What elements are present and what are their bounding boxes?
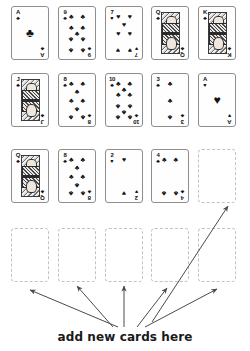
card-pip-clubs-icon: ♣ <box>80 97 85 104</box>
caption-add-new-cards-here: add new cards here <box>0 330 250 344</box>
empty-card-slot[interactable] <box>105 228 143 282</box>
playing-card[interactable]: 2♥2♥♥♥ <box>105 149 143 203</box>
card-board: A♣A♣♣9♣9♣♣♣♣♣♣♣♣♣♣7♥7♥♥♥♥♥♥♥♥Q♣Q♣K♣K♣ J♣… <box>0 0 250 351</box>
card-pip-clubs-icon: ♣ <box>75 30 80 37</box>
playing-card[interactable]: K♣K♣ <box>198 6 236 60</box>
card-row-2: Q♣Q♣8♣8♣♣♣♣♣♣♣♣♣2♥2♥♥♥4♣4♣♣♣♣♣ <box>0 149 250 205</box>
card-pip-clubs-icon: ♣ <box>162 155 167 162</box>
card-slot-r0-c2[interactable]: 7♥7♥♥♥♥♥♥♥♥ <box>105 6 143 60</box>
card-pip-hearts-icon: ♥ <box>128 47 132 54</box>
playing-card[interactable]: 10♣10♣♣♣♣♣♣♣♣♣♣♣ <box>105 73 143 127</box>
card-pip-clubs-icon: ♣ <box>80 155 85 162</box>
card-slot-r0-c4[interactable]: K♣K♣ <box>198 6 236 60</box>
card-pip-clubs-icon: ♣ <box>69 79 74 86</box>
card-pip-clubs-icon: ♣ <box>80 173 85 180</box>
card-pip-clubs-icon: ♣ <box>80 24 85 31</box>
card-pip-clubs-icon: ♣ <box>116 102 121 109</box>
card-pip-clubs-icon: ♣ <box>69 173 74 180</box>
card-slot-r3-c0[interactable] <box>11 228 49 282</box>
arrow-to-slot-r3c4 <box>145 289 217 327</box>
card-pip-clubs-icon: ♣ <box>116 91 121 98</box>
card-pip-clubs-icon: ♣ <box>69 190 74 197</box>
card-pip-hearts-icon: ♥ <box>116 47 120 54</box>
card-pip-clubs-icon: ♣ <box>173 155 178 162</box>
playing-card[interactable]: J♣J♣ <box>11 73 49 127</box>
card-pip-clubs-icon: ♣ <box>75 164 80 171</box>
card-pip-clubs-icon: ♣ <box>69 24 74 31</box>
court-divider <box>209 32 226 35</box>
card-slot-r3-c4[interactable] <box>198 228 236 282</box>
card-pip-hearts-icon: ♥ <box>128 12 132 19</box>
card-pip-clubs-icon: ♣ <box>116 114 121 121</box>
card-pip-field: ♣♣♣♣♣♣♣♣♣ <box>68 10 86 56</box>
card-pip-clubs-icon: ♣ <box>80 190 85 197</box>
playing-card[interactable]: A♣A♣♣ <box>11 6 49 60</box>
card-pip-clubs-icon: ♣ <box>80 114 85 121</box>
card-slot-r1-c0[interactable]: J♣J♣ <box>11 73 49 127</box>
card-pip-clubs-icon: ♣ <box>122 85 127 92</box>
card-pip-field: ♥ <box>208 77 226 123</box>
empty-card-slot[interactable] <box>151 228 189 282</box>
playing-card[interactable]: 3♣3♣♣♣♣ <box>151 73 189 127</box>
court-figure-icon <box>21 79 40 121</box>
card-pip-clubs-icon: ♣ <box>75 88 80 95</box>
card-pip-clubs-icon: ♣ <box>69 114 74 121</box>
playing-card[interactable]: 8♣8♣♣♣♣♣♣♣♣♣ <box>58 149 96 203</box>
card-slot-r3-c3[interactable] <box>151 228 189 282</box>
card-slot-r1-c1[interactable]: 8♣8♣♣♣♣♣♣♣♣♣ <box>58 73 96 127</box>
card-pip-clubs-icon: ♣ <box>69 12 74 19</box>
empty-card-slot[interactable] <box>11 228 49 282</box>
card-pip-clubs-icon: ♣ <box>122 108 127 115</box>
court-figure-icon <box>161 12 180 54</box>
card-pip-clubs-icon: ♣ <box>69 155 74 162</box>
card-slot-r0-c3[interactable]: Q♣Q♣ <box>151 6 189 60</box>
playing-card[interactable]: A♥A♥♥ <box>198 73 236 127</box>
card-slot-r2-c1[interactable]: 8♣8♣♣♣♣♣♣♣♣♣ <box>58 149 96 203</box>
empty-card-slot[interactable] <box>58 228 96 282</box>
card-pip-field: ♣♣♣ <box>161 77 179 123</box>
card-pip-clubs-icon: ♣ <box>168 79 173 86</box>
playing-card[interactable]: Q♣Q♣ <box>11 149 49 203</box>
court-divider <box>162 32 179 35</box>
playing-card[interactable]: 9♣9♣♣♣♣♣♣♣♣♣♣ <box>58 6 96 60</box>
card-slot-r3-c1[interactable] <box>58 228 96 282</box>
card-slot-r3-c2[interactable] <box>105 228 143 282</box>
card-pip-clubs-icon: ♣ <box>173 190 178 197</box>
card-slot-r1-c3[interactable]: 3♣3♣♣♣♣ <box>151 73 189 127</box>
arrow-to-slot-r3c3 <box>137 288 167 327</box>
arrow-to-slot-r3c1 <box>77 286 113 327</box>
card-pip-clubs-icon: ♣ <box>127 79 132 86</box>
card-slot-r2-c4[interactable] <box>198 149 236 203</box>
card-pip-clubs-icon: ♣ <box>80 79 85 86</box>
card-pip-hearts-icon: ♥ <box>122 155 126 162</box>
card-pip-clubs-icon: ♣ <box>116 79 121 86</box>
card-slot-r0-c1[interactable]: 9♣9♣♣♣♣♣♣♣♣♣♣ <box>58 6 96 60</box>
playing-card[interactable]: 4♣4♣♣♣♣♣ <box>151 149 189 203</box>
court-divider <box>22 175 39 178</box>
card-pip-clubs-icon: ♣ <box>127 102 132 109</box>
card-slot-r2-c3[interactable]: 4♣4♣♣♣♣♣ <box>151 149 189 203</box>
card-pip-field: ♥♥♥♥♥♥♥ <box>115 10 133 56</box>
empty-card-slot[interactable] <box>198 149 236 203</box>
card-slot-r2-c0[interactable]: Q♣Q♣ <box>11 149 49 203</box>
card-pip-clubs-icon: ♣ <box>69 47 74 54</box>
card-pip-clubs-icon: ♣ <box>127 114 132 121</box>
playing-card[interactable]: Q♣Q♣ <box>151 6 189 60</box>
empty-card-slot[interactable] <box>198 228 236 282</box>
card-pip-clubs-icon: ♣ <box>162 190 167 197</box>
card-slot-r1-c4[interactable]: A♥A♥♥ <box>198 73 236 127</box>
card-pip-hearts-icon: ♥ <box>122 190 126 197</box>
playing-card[interactable]: 7♥7♥♥♥♥♥♥♥♥ <box>105 6 143 60</box>
card-pip-hearts-icon: ♥ <box>116 12 120 19</box>
card-slot-r2-c2[interactable]: 2♥2♥♥♥ <box>105 149 143 203</box>
card-pip-hearts-icon: ♥ <box>116 30 120 37</box>
arrow-to-slot-r3c0 <box>30 290 118 327</box>
card-row-1: J♣J♣8♣8♣♣♣♣♣♣♣♣♣10♣10♣♣♣♣♣♣♣♣♣♣♣3♣3♣♣♣♣A… <box>0 73 250 129</box>
card-pip-clubs-icon: ♣ <box>75 105 80 112</box>
card-slot-r1-c2[interactable]: 10♣10♣♣♣♣♣♣♣♣♣♣♣ <box>105 73 143 127</box>
playing-card[interactable]: 8♣8♣♣♣♣♣♣♣♣♣ <box>58 73 96 127</box>
card-slot-r0-c0[interactable]: A♣A♣♣ <box>11 6 49 60</box>
court-figure-icon <box>208 12 227 54</box>
card-pip-clubs-icon: ♣ <box>69 97 74 104</box>
card-pip-field: ♥♥ <box>115 153 133 199</box>
